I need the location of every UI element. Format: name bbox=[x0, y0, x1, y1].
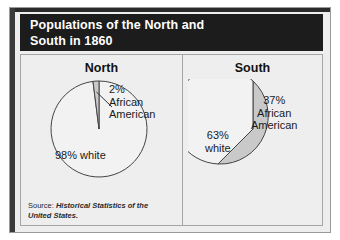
panel-title-south: South bbox=[183, 61, 322, 75]
panel-north: North 2% African American 98% white bbox=[21, 55, 183, 225]
top-rule-divider bbox=[10, 8, 330, 12]
figure-container: Populations of the North and South in 18… bbox=[9, 7, 331, 233]
panel-title-north: North bbox=[21, 61, 182, 75]
left-accent-bar bbox=[10, 8, 15, 232]
pie-north-label-aa-line-1: 2% bbox=[109, 83, 155, 96]
source-prefix: Source: bbox=[28, 201, 54, 210]
pie-south-label-white-line-1: 63% bbox=[205, 129, 231, 142]
pie-south-label-aa-line-1: 37% bbox=[251, 94, 297, 107]
pie-south-label-white-line-2: white bbox=[205, 142, 231, 155]
pie-north-label-white: 98% white bbox=[55, 149, 106, 162]
pie-north-label-aa-line-3: American bbox=[109, 108, 155, 121]
pie-north-label-aa-line-2: African bbox=[109, 96, 155, 109]
panel-south: South 37% African American 63% white bbox=[183, 55, 322, 225]
pie-south-label-white: 63% white bbox=[205, 129, 231, 154]
pie-south-label-aa-line-3: American bbox=[251, 119, 297, 132]
figure-title-line-1: Populations of the North and bbox=[30, 17, 323, 33]
pie-south-label-african-american: 37% African American bbox=[251, 94, 297, 132]
pie-north-label-white-line-1: 98% white bbox=[55, 149, 106, 162]
figure-title-line-2: South in 1860 bbox=[30, 33, 323, 49]
chart-panels: North 2% African American 98% white bbox=[20, 54, 323, 226]
figure-title: Populations of the North and South in 18… bbox=[20, 14, 323, 51]
pie-chart-north bbox=[21, 79, 182, 199]
source-note: Source: Historical Statistics of the Uni… bbox=[28, 201, 168, 220]
pie-north-label-african-american: 2% African American bbox=[109, 83, 155, 121]
pie-south-label-aa-line-2: African bbox=[251, 107, 297, 120]
